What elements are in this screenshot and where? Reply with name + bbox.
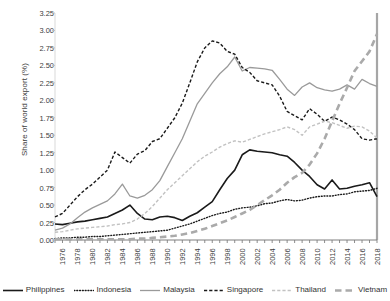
legend-label: Philippines	[26, 286, 65, 294]
legend-label: Indonesia	[97, 286, 132, 294]
legend-swatch-icon	[140, 286, 160, 295]
legend-item-indonesia[interactable]: Indonesia	[74, 286, 132, 295]
chart-legend: PhilippinesIndonesiaMalaysiaSingaporeTha…	[0, 279, 390, 301]
legend-swatch-icon	[74, 286, 94, 295]
legend-item-malaysia[interactable]: Malaysia	[140, 286, 195, 295]
series-line-malaysia	[55, 57, 377, 230]
legend-label: Vietnam	[358, 286, 387, 294]
legend-swatch-icon	[335, 286, 355, 295]
legend-item-thailand[interactable]: Thailand	[272, 286, 326, 295]
series-line-thailand	[55, 121, 377, 232]
chart-container: Share of world export (%) 0.000.250.500.…	[0, 0, 390, 301]
legend-label: Thailand	[295, 286, 326, 294]
legend-swatch-icon	[272, 286, 292, 295]
legend-swatch-icon	[204, 286, 224, 295]
series-line-vietnam	[55, 34, 377, 239]
series-line-philippines	[55, 150, 377, 225]
legend-label: Singapore	[227, 286, 263, 294]
legend-item-philippines[interactable]: Philippines	[3, 286, 65, 295]
plot-area	[0, 0, 390, 301]
legend-item-vietnam[interactable]: Vietnam	[335, 286, 387, 295]
legend-swatch-icon	[3, 286, 23, 295]
legend-label: Malaysia	[163, 286, 195, 294]
legend-item-singapore[interactable]: Singapore	[204, 286, 263, 295]
